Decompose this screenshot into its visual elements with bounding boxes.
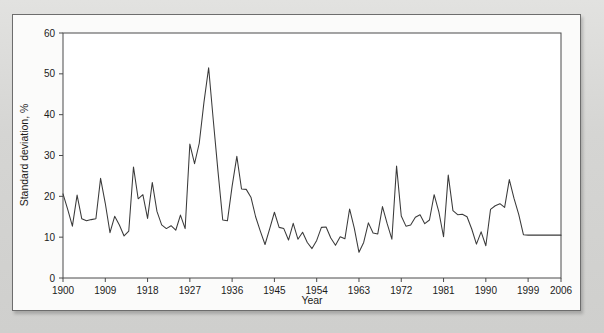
- x-tick-label: 1981: [432, 285, 455, 296]
- figure-card: 0102030405060 19001909191819271936194519…: [12, 14, 581, 311]
- x-axis-title: Year: [301, 294, 323, 306]
- figure-root: 0102030405060 19001909191819271936194519…: [0, 0, 604, 333]
- y-tick-label: 10: [44, 232, 56, 243]
- x-tick-label: 1999: [517, 285, 540, 296]
- x-tick-label: 1900: [52, 285, 75, 296]
- x-tick-label: 1963: [348, 285, 371, 296]
- x-tick-label: 2006: [550, 285, 573, 296]
- line-chart: 0102030405060 19001909191819271936194519…: [13, 15, 580, 310]
- y-tick-label: 0: [49, 273, 55, 284]
- x-tick-label: 1936: [221, 285, 244, 296]
- y-axis-ticks: 0102030405060: [44, 28, 63, 284]
- y-tick-label: 40: [44, 109, 56, 120]
- y-tick-label: 20: [44, 191, 56, 202]
- x-tick-label: 1945: [263, 285, 286, 296]
- x-tick-label: 1972: [390, 285, 413, 296]
- y-tick-label: 60: [44, 28, 56, 39]
- y-tick-label: 30: [44, 150, 56, 161]
- y-tick-label: 50: [44, 68, 56, 79]
- x-tick-label: 1990: [475, 285, 498, 296]
- x-tick-label: 1918: [136, 285, 159, 296]
- x-tick-label: 1909: [94, 285, 117, 296]
- x-tick-label: 1927: [179, 285, 202, 296]
- y-axis-title: Standard deviation, %: [18, 104, 30, 207]
